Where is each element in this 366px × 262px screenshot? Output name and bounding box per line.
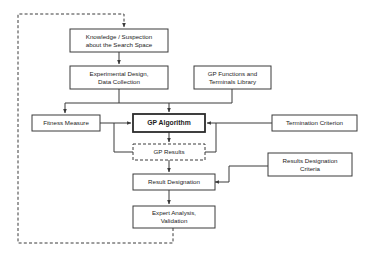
node-fitness-measure[interactable]: Fitness Measure: [32, 115, 100, 131]
node-results-designation-criteria[interactable]: Results Designation Criteria: [268, 153, 352, 176]
node-knowledge-label-line2: about the Search Space: [86, 41, 153, 48]
node-termination-criterion[interactable]: Termination Criterion: [272, 115, 357, 131]
node-gp-results-label: GP Results: [153, 148, 184, 155]
node-result-designation-label: Result Designation: [148, 178, 200, 185]
node-fitness-measure-label: Fitness Measure: [43, 119, 89, 126]
node-knowledge-label-line1: Knowledge / Suspection: [86, 33, 153, 40]
node-experimental-design-label-line1: Experimental Design,: [90, 70, 149, 77]
edge-results-to-algorithm-right: [205, 123, 216, 152]
flowchart-canvas: Knowledge / Suspection about the Search …: [0, 0, 366, 262]
node-gp-functions-library[interactable]: GP Functions and Terminals Library: [194, 66, 271, 89]
node-knowledge[interactable]: Knowledge / Suspection about the Search …: [70, 29, 168, 52]
node-expert-analysis[interactable]: Expert Analysis, Validation: [133, 206, 215, 228]
node-results-designation-criteria-label-line1: Results Designation: [282, 157, 338, 164]
node-results-designation-criteria-label-line2: Criteria: [300, 165, 320, 172]
node-expert-analysis-label-line2: Validation: [161, 217, 188, 224]
edge-results-to-algorithm-left: [114, 123, 133, 152]
node-experimental-design[interactable]: Experimental Design, Data Collection: [70, 66, 168, 89]
node-gp-functions-library-label-line2: Terminals Library: [209, 78, 257, 85]
node-gp-results[interactable]: GP Results: [133, 144, 205, 160]
node-experimental-design-label-line2: Data Collection: [98, 78, 141, 85]
flowchart-diagram: Knowledge / Suspection about the Search …: [0, 0, 366, 262]
node-gp-algorithm[interactable]: GP Algorithm: [133, 114, 205, 132]
node-expert-analysis-label-line1: Expert Analysis,: [152, 209, 196, 216]
edge-criteria-to-designation: [215, 166, 268, 182]
node-gp-functions-library-label-line1: GP Functions and: [208, 70, 258, 77]
node-gp-algorithm-label: GP Algorithm: [147, 119, 190, 127]
node-termination-criterion-label: Termination Criterion: [286, 119, 344, 126]
node-result-designation[interactable]: Result Designation: [133, 174, 215, 190]
